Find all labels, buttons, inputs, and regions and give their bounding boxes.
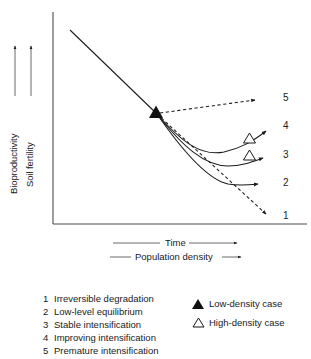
- legend-index-5: 5: [43, 344, 54, 357]
- y-axis-arrows: [15, 46, 31, 96]
- endpoint-label-4: 4: [283, 120, 289, 131]
- legend-marker-list: Low-density case High-density case: [192, 294, 311, 332]
- endpoint-label-3: 3: [283, 149, 289, 160]
- y-axis-title-soil-fertility: Soil fertility: [24, 142, 35, 187]
- endpoint-label-5: 5: [283, 92, 289, 103]
- legend-item-5: 5 Premature intensification: [43, 344, 193, 357]
- legend-index-3: 3: [43, 318, 54, 331]
- legend-marker-label-high-density: High-density case: [209, 313, 285, 332]
- legend-label-5: Premature intensification: [54, 344, 159, 357]
- legend-item-3: 3 Stable intensification: [43, 318, 193, 331]
- filled-triangle-icon: [192, 299, 209, 309]
- baseline-decline-line: [70, 30, 157, 114]
- legend-item-4: 4 Improving intensification: [43, 331, 193, 344]
- legend-marker-high-density: High-density case: [192, 313, 311, 332]
- legend-index-1: 1: [43, 292, 54, 305]
- trajectory-2-path: [157, 114, 258, 185]
- endpoint-label-2: 2: [283, 177, 289, 188]
- endpoint-label-1: 1: [283, 210, 289, 221]
- legend-label-2: Low-level equilibrium: [54, 305, 143, 318]
- legend-marker-low-density: Low-density case: [192, 294, 311, 313]
- legend-item-1: 1 Irreversible degradation: [43, 292, 193, 305]
- legend-index-4: 4: [43, 331, 54, 344]
- legend-label-3: Stable intensification: [54, 318, 141, 331]
- axis-frame: [53, 12, 307, 224]
- high-density-case-marker-4: [244, 133, 256, 143]
- x-axis-title-time: Time: [165, 237, 186, 248]
- low-density-case-marker: [149, 106, 163, 119]
- legend-marker-label-low-density: Low-density case: [209, 294, 282, 313]
- legend-label-1: Irreversible degradation: [54, 292, 154, 305]
- legend-label-4: Improving intensification: [54, 331, 156, 344]
- open-triangle-icon: [192, 317, 209, 328]
- x-axis-title-population-density: Population density: [135, 251, 213, 262]
- legend-item-2: 2 Low-level equilibrium: [43, 305, 193, 318]
- high-density-case-marker-3: [244, 150, 256, 160]
- legend-index-2: 2: [43, 305, 54, 318]
- trajectory-1-path: [157, 114, 266, 214]
- trajectory-5-path: [160, 100, 255, 113]
- legend-numbered-list: 1 Irreversible degradation 2 Low-level e…: [43, 292, 193, 357]
- figure-container: Bioproductivity Soil fertility Time Popu…: [0, 0, 311, 359]
- y-axis-title-bioproductivity: Bioproductivity: [8, 134, 19, 194]
